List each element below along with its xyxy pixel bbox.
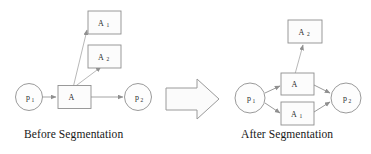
transition-arrow-icon bbox=[166, 79, 219, 119]
node-p1-before: p 1 bbox=[16, 84, 43, 111]
node-p1-after-label: p bbox=[247, 94, 251, 103]
edge-a1-to-p2-after bbox=[314, 102, 330, 112]
edge-a-to-p2-after bbox=[314, 85, 330, 93]
node-a2-shape bbox=[88, 45, 121, 68]
node-a1-after-shape bbox=[281, 102, 314, 125]
caption-before-segmentation: Before Segmentation bbox=[24, 128, 123, 140]
diagram-after: p 1 A A 1 A 2 p bbox=[235, 20, 361, 125]
node-a1-after-subscript: 1 bbox=[300, 113, 303, 119]
node-a2-after-label: A bbox=[299, 28, 305, 37]
node-a2-after-subscript: 2 bbox=[307, 31, 310, 37]
node-a-after-shape bbox=[281, 73, 314, 95]
segmentation-figure: p 1 A p 2 A 1 A bbox=[0, 0, 371, 154]
node-a2-before: A 2 bbox=[88, 45, 121, 68]
block-arrow-shape bbox=[166, 79, 219, 119]
node-p2-before: p 2 bbox=[125, 84, 152, 111]
diagram-before: p 1 A p 2 A 1 A bbox=[16, 11, 152, 111]
caption-after-segmentation: After Segmentation bbox=[241, 128, 333, 140]
node-p2-label: p bbox=[135, 93, 139, 102]
node-p1-label: p bbox=[26, 93, 30, 102]
node-a2-after: A 2 bbox=[288, 20, 322, 43]
node-a2-subscript: 2 bbox=[107, 56, 110, 62]
node-a-after: A bbox=[281, 73, 314, 95]
node-a-after-label: A bbox=[292, 80, 298, 89]
node-a1-before: A 1 bbox=[88, 11, 121, 34]
node-p2-subscript: 2 bbox=[141, 97, 144, 103]
node-a-shape bbox=[58, 86, 91, 109]
node-a1-subscript: 1 bbox=[107, 22, 110, 28]
node-a-before: A bbox=[58, 86, 91, 109]
node-a1-after: A 1 bbox=[281, 102, 314, 125]
node-a1-label: A bbox=[98, 19, 104, 28]
node-p1-after-subscript: 1 bbox=[253, 98, 256, 104]
node-p1-after: p 1 bbox=[235, 83, 265, 113]
node-p2-after: p 2 bbox=[331, 83, 361, 113]
node-a2-label: A bbox=[98, 53, 104, 62]
node-a-label: A bbox=[69, 93, 75, 102]
node-p2-after-subscript: 2 bbox=[349, 98, 352, 104]
node-p2-after-label: p bbox=[343, 94, 347, 103]
edge-p1-to-a-after bbox=[265, 86, 280, 93]
node-a1-after-label: A bbox=[291, 110, 297, 119]
edge-a-to-a2-after bbox=[295, 45, 303, 74]
node-a2-after-shape bbox=[288, 20, 322, 43]
node-a1-shape bbox=[88, 11, 121, 34]
node-p1-subscript: 1 bbox=[32, 97, 35, 103]
edge-p1-to-a1-after bbox=[265, 103, 280, 113]
